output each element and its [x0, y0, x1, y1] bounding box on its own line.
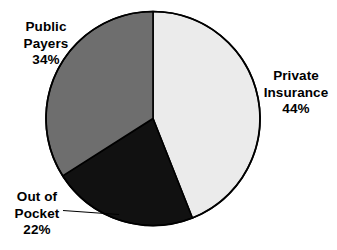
slice-label-private-insurance: Private Insurance 44%	[255, 68, 337, 118]
slice-label-out-of-pocket-line1: Out of	[2, 189, 72, 206]
slice-label-private-insurance-value: 44%	[255, 101, 337, 118]
slice-label-public-payers-value: 34%	[4, 52, 88, 69]
slice-label-private-insurance-line2: Insurance	[255, 85, 337, 102]
slice-label-public-payers-line1: Public	[4, 19, 88, 36]
slice-label-out-of-pocket-value: 22%	[2, 222, 72, 239]
slice-label-public-payers-line2: Payers	[4, 36, 88, 53]
slice-label-out-of-pocket-line2: Pocket	[2, 206, 72, 223]
slice-label-private-insurance-line1: Private	[255, 68, 337, 85]
slice-label-public-payers: Public Payers 34%	[4, 19, 88, 69]
pie-chart-figure: Public Payers 34% Private Insurance 44% …	[0, 0, 337, 250]
slice-label-out-of-pocket: Out of Pocket 22%	[2, 189, 72, 239]
